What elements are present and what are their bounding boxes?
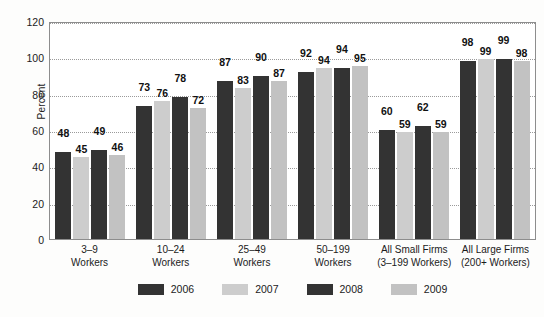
bar-value-label: 92 bbox=[300, 47, 312, 59]
bar[interactable] bbox=[109, 155, 125, 239]
bar[interactable] bbox=[334, 68, 350, 239]
bar-group: 92949495 bbox=[292, 23, 373, 239]
bar-value-label: 87 bbox=[219, 56, 231, 68]
bar-value-label: 98 bbox=[462, 36, 474, 48]
x-axis-category-label: 25–49Workers bbox=[211, 243, 292, 269]
bar[interactable] bbox=[55, 152, 71, 239]
x-axis-category-label: 50–199Workers bbox=[293, 243, 374, 269]
bar-value-label: 59 bbox=[399, 118, 411, 130]
bar-groups: 4845494673767872878390879294949560596259… bbox=[50, 23, 535, 239]
chart-legend: 2006200720082009 bbox=[49, 283, 536, 295]
bar-slot: 99 bbox=[496, 23, 512, 239]
bar-slot: 92 bbox=[298, 23, 314, 239]
x-axis-category-label-line: Workers bbox=[211, 256, 292, 269]
bar-value-label: 78 bbox=[174, 72, 186, 84]
x-axis-category-label-line: (3–199 Workers) bbox=[374, 256, 455, 269]
bar-slot: 98 bbox=[460, 23, 476, 239]
bar-value-label: 76 bbox=[156, 87, 168, 99]
y-axis-tick-label: 20 bbox=[18, 198, 44, 210]
bar[interactable] bbox=[379, 130, 395, 239]
bar[interactable] bbox=[154, 101, 170, 239]
bar-slot: 95 bbox=[352, 23, 368, 239]
x-axis-category-label-line: Workers bbox=[130, 256, 211, 269]
bar-value-label: 94 bbox=[318, 54, 330, 66]
bar-slot: 94 bbox=[334, 23, 350, 239]
bar-slot: 72 bbox=[190, 23, 206, 239]
bar-value-label: 49 bbox=[94, 125, 106, 137]
bar[interactable] bbox=[397, 132, 413, 239]
bar[interactable] bbox=[73, 157, 89, 239]
bar[interactable] bbox=[253, 76, 269, 240]
bar-value-label: 60 bbox=[381, 105, 393, 117]
bar-slot: 76 bbox=[154, 23, 170, 239]
bar[interactable] bbox=[478, 59, 494, 239]
y-axis-tick-label: 40 bbox=[18, 161, 44, 173]
legend-item[interactable]: 2008 bbox=[307, 283, 363, 295]
bar-chart-figure: Percent 020406080100120 4845494673767872… bbox=[0, 0, 544, 317]
x-axis-category-labels: 3–9Workers10–24Workers25–49Workers50–199… bbox=[49, 243, 536, 269]
bar[interactable] bbox=[91, 150, 107, 239]
bar[interactable] bbox=[235, 88, 251, 239]
bar-slot: 78 bbox=[172, 23, 188, 239]
bar[interactable] bbox=[415, 126, 431, 239]
y-axis-tick-label: 120 bbox=[18, 16, 44, 28]
x-axis-category-label: 10–24Workers bbox=[130, 243, 211, 269]
legend-color-swatch bbox=[138, 284, 164, 295]
bar[interactable] bbox=[433, 132, 449, 239]
bar-slot: 59 bbox=[397, 23, 413, 239]
bar[interactable] bbox=[460, 61, 476, 239]
legend-color-swatch bbox=[222, 284, 248, 295]
bar[interactable] bbox=[172, 97, 188, 239]
x-axis-category-label-line: All Large Firms bbox=[455, 243, 536, 256]
legend-item[interactable]: 2007 bbox=[222, 283, 278, 295]
bar[interactable] bbox=[271, 81, 287, 239]
bar[interactable] bbox=[217, 81, 233, 239]
bar-value-label: 73 bbox=[138, 81, 150, 93]
bar[interactable] bbox=[316, 68, 332, 239]
x-axis-category-label: All Small Firms(3–199 Workers) bbox=[374, 243, 455, 269]
x-axis-category-label: 3–9Workers bbox=[49, 243, 130, 269]
x-axis-category-label: All Large Firms(200+ Workers) bbox=[455, 243, 536, 269]
bar-slot: 46 bbox=[109, 23, 125, 239]
y-axis-tick-labels: 020406080100120 bbox=[14, 0, 44, 317]
x-axis-category-label-line: (200+ Workers) bbox=[455, 256, 536, 269]
bar[interactable] bbox=[298, 72, 314, 239]
bar[interactable] bbox=[190, 108, 206, 239]
bar-group: 73767872 bbox=[131, 23, 212, 239]
legend-label: 2009 bbox=[424, 283, 447, 295]
bar-slot: 94 bbox=[316, 23, 332, 239]
bar-group: 98999998 bbox=[454, 23, 535, 239]
x-axis-category-label-line: 50–199 bbox=[293, 243, 374, 256]
bar[interactable] bbox=[514, 61, 530, 239]
bar[interactable] bbox=[136, 106, 152, 239]
legend-item[interactable]: 2009 bbox=[391, 283, 447, 295]
bar-value-label: 45 bbox=[76, 143, 88, 155]
bar-slot: 83 bbox=[235, 23, 251, 239]
plot-area: 4845494673767872878390879294949560596259… bbox=[49, 22, 536, 240]
legend-label: 2006 bbox=[171, 283, 194, 295]
bar-slot: 60 bbox=[379, 23, 395, 239]
bar[interactable] bbox=[352, 66, 368, 239]
y-axis-tick-label: 0 bbox=[18, 234, 44, 246]
bar-slot: 48 bbox=[55, 23, 71, 239]
y-axis-tick-label: 60 bbox=[18, 125, 44, 137]
bar-value-label: 94 bbox=[336, 43, 348, 55]
bar-slot: 98 bbox=[514, 23, 530, 239]
bar[interactable] bbox=[496, 59, 512, 239]
bar-value-label: 72 bbox=[192, 94, 204, 106]
bar-value-label: 59 bbox=[435, 118, 447, 130]
x-axis-category-label-line: 25–49 bbox=[211, 243, 292, 256]
x-axis-category-label-line: Workers bbox=[293, 256, 374, 269]
bar-slot: 99 bbox=[478, 23, 494, 239]
legend-color-swatch bbox=[307, 284, 333, 295]
x-axis-category-label-line: 3–9 bbox=[49, 243, 130, 256]
x-axis-category-label-line: All Small Firms bbox=[374, 243, 455, 256]
bar-value-label: 95 bbox=[354, 52, 366, 64]
legend-item[interactable]: 2006 bbox=[138, 283, 194, 295]
bar-slot: 87 bbox=[271, 23, 287, 239]
y-axis-tick-label: 100 bbox=[18, 52, 44, 64]
x-axis-category-label-line: 10–24 bbox=[130, 243, 211, 256]
bar-value-label: 99 bbox=[498, 34, 510, 46]
bar-slot: 73 bbox=[136, 23, 152, 239]
bar-value-label: 99 bbox=[480, 45, 492, 57]
